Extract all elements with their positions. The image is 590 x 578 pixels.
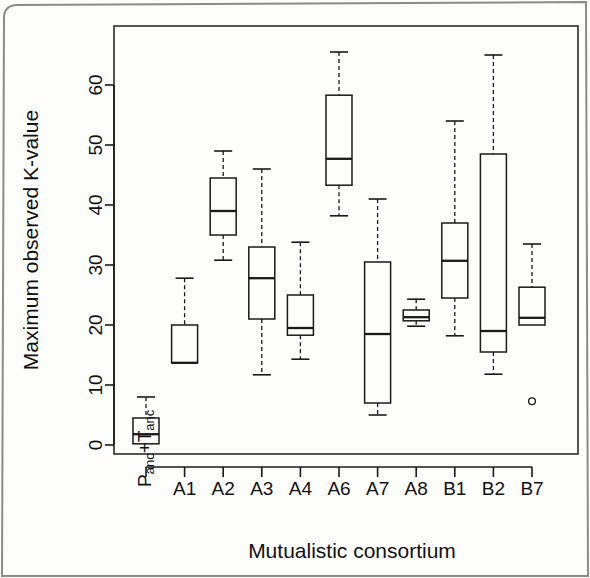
x-axis-title: Mutualistic consortium: [248, 539, 456, 562]
box-a1: [172, 278, 198, 363]
y-axis: 0102030405060: [85, 74, 114, 450]
x-tick-label-a8: A8: [405, 478, 428, 499]
y-axis-title: Maximum observed K-value: [19, 110, 42, 370]
box-a8: [403, 299, 429, 326]
box-b1: [442, 121, 468, 336]
y-tick-label: 0: [85, 440, 106, 451]
y-tick-label: 40: [85, 194, 106, 215]
x-tick-label-a2: A2: [212, 478, 235, 499]
x-tick-label-b7: B7: [520, 478, 543, 499]
x-tick-label-b1: B1: [443, 478, 466, 499]
x-tick-label-b2: B2: [482, 478, 505, 499]
x-tick-label-panc-tanc: Panc+Tanc: [134, 409, 157, 487]
box-b2: [480, 55, 506, 374]
y-tick-label: 10: [85, 374, 106, 395]
y-tick-label: 50: [85, 134, 106, 155]
figure-panel: 0102030405060 Panc+TancA1A2A3A4A6A7A8B1B…: [0, 0, 590, 578]
box-b7: [519, 244, 545, 405]
box-a2: [210, 151, 236, 260]
plot-panel-border: [114, 26, 578, 454]
outlier-point: [529, 398, 536, 405]
y-tick-label: 60: [85, 74, 106, 95]
box-a3: [249, 169, 275, 375]
box-a4: [287, 242, 313, 359]
box-a6: [326, 52, 352, 216]
box-a7: [365, 199, 391, 415]
x-tick-label-a4: A4: [289, 478, 313, 499]
x-tick-label-a7: A7: [366, 478, 389, 499]
y-tick-label: 20: [85, 314, 106, 335]
box-series: [133, 52, 545, 444]
boxplot-chart: 0102030405060 Panc+TancA1A2A3A4A6A7A8B1B…: [0, 0, 590, 578]
x-tick-label-a3: A3: [250, 478, 273, 499]
x-tick-label-a6: A6: [327, 478, 350, 499]
x-tick-label-a1: A1: [173, 478, 196, 499]
svg-text:Panc+Tanc: Panc+Tanc: [134, 409, 157, 487]
y-tick-label: 30: [85, 254, 106, 275]
